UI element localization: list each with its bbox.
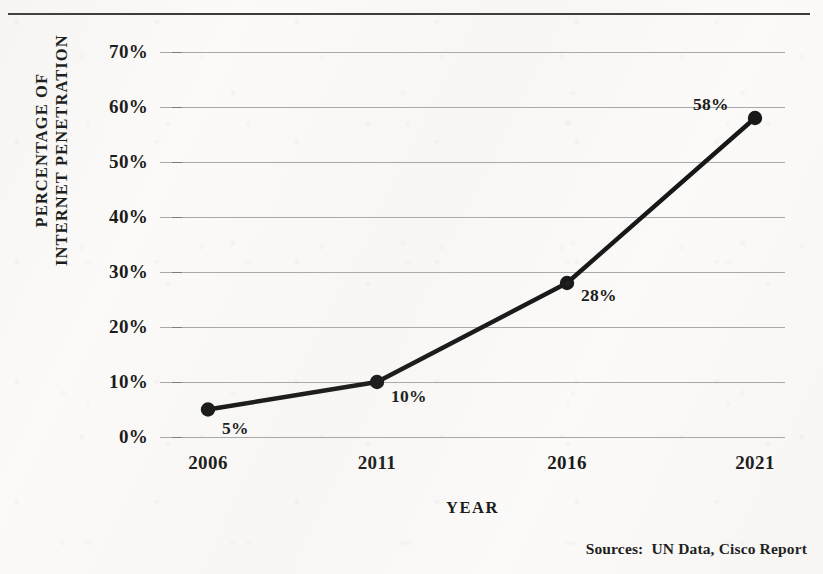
sources-note: Sources: UN Data, Cisco Report <box>586 540 807 558</box>
x-tick-label: 2006 <box>138 452 278 474</box>
x-tick-label: 2016 <box>497 452 637 474</box>
data-point-marker <box>748 111 762 125</box>
x-axis-title: YEAR <box>160 498 785 518</box>
data-point-marker <box>560 276 574 290</box>
data-point-label: 10% <box>391 386 427 407</box>
x-tick-label: 2011 <box>307 452 447 474</box>
data-point-label: 28% <box>581 285 617 306</box>
chart-figure: 0%10%20%30%40%50%60%70% PERCENTAGE OF IN… <box>0 0 823 574</box>
data-point-marker <box>201 402 215 416</box>
data-point-label: 58% <box>693 94 729 115</box>
data-point-label: 5% <box>222 418 249 439</box>
data-point-marker <box>370 375 384 389</box>
data-point-markers <box>201 111 762 417</box>
line-series-layer <box>0 0 823 574</box>
internet-penetration-line <box>208 118 755 410</box>
x-tick-label: 2021 <box>685 452 823 474</box>
